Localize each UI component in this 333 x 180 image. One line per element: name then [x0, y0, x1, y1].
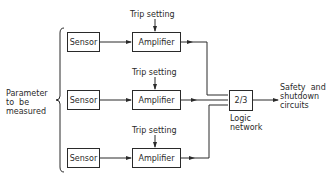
logic-network-caption: Logic network	[230, 114, 263, 132]
output-label: Safety and shutdown circuits	[280, 83, 326, 110]
amplifier-box-2: Amplifier	[132, 90, 181, 110]
input-label: Parameter to be measured	[6, 89, 48, 116]
input-brace	[56, 28, 64, 172]
logic-network-box: 2/3	[229, 90, 253, 111]
trip-setting-label-1: Trip setting	[130, 10, 175, 19]
trip-setting-label-2: Trip setting	[132, 68, 177, 77]
sensor-box-3: Sensor	[67, 148, 100, 168]
amplifier-box-3: Amplifier	[132, 148, 181, 168]
amplifier-box-1: Amplifier	[132, 32, 181, 52]
sensor-box-1: Sensor	[67, 32, 100, 52]
trip-setting-label-3: Trip setting	[132, 126, 177, 135]
sensor-box-2: Sensor	[67, 90, 100, 110]
